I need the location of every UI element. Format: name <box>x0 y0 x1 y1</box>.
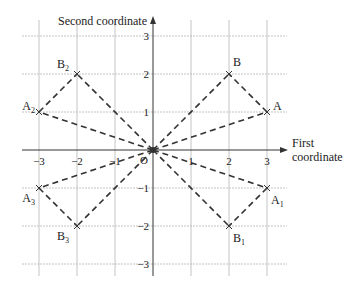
point-label: A <box>273 99 282 113</box>
dashed-segment <box>39 188 77 226</box>
point-label: A1 <box>271 193 284 209</box>
point-label-name: A <box>22 191 31 205</box>
coordinate-diagram: First coordinate Second coordinate O −3−… <box>0 0 357 289</box>
x-tick-label: −1 <box>109 155 121 167</box>
y-tick-label: −1 <box>137 182 149 194</box>
y-tick-label: −2 <box>137 220 149 232</box>
point-label-name: A <box>271 193 280 207</box>
origin-label: O <box>140 154 148 166</box>
x-tick-label: −2 <box>71 155 83 167</box>
x-tick-label: 1 <box>188 155 194 167</box>
dashed-segment <box>153 112 267 150</box>
point-label-subscript: 3 <box>65 236 69 245</box>
point-label: A3 <box>22 191 35 207</box>
point-label-name: B <box>233 55 241 69</box>
point-label-name: B <box>233 231 241 245</box>
y-tick-label: −3 <box>137 258 149 270</box>
x-axis-label-line1: First <box>292 136 315 150</box>
y-axis-arrow-icon <box>150 16 156 24</box>
point-label-subscript: 3 <box>31 198 35 207</box>
point-label: B2 <box>57 57 69 73</box>
point-label: B3 <box>57 229 69 245</box>
x-tick-label: 3 <box>264 155 270 167</box>
x-tick-label: 2 <box>226 155 232 167</box>
dashed-segment <box>39 150 153 188</box>
point-label-name: A <box>273 99 282 113</box>
point-label: B1 <box>233 231 245 247</box>
x-axis-label-line2: coordinate <box>292 150 343 164</box>
point-label-subscript: 2 <box>65 64 69 73</box>
y-tick-label: 1 <box>144 106 150 118</box>
point-label-name: B <box>57 57 65 71</box>
point-label-subscript: 1 <box>241 238 245 247</box>
dashed-segment <box>39 112 153 150</box>
point-label-subscript: 2 <box>31 106 35 115</box>
dashed-segment <box>229 74 267 112</box>
y-axis-label: Second coordinate <box>58 14 147 28</box>
y-tick-label: 3 <box>144 30 150 42</box>
dashed-segment <box>39 74 77 112</box>
point-label: B <box>233 55 241 69</box>
point-label-name: B <box>57 229 65 243</box>
x-tick-label: −3 <box>33 155 45 167</box>
y-tick-label: 2 <box>144 68 150 80</box>
point-label-subscript: 1 <box>280 200 284 209</box>
axes: First coordinate Second coordinate O <box>22 14 343 276</box>
coordinate-plane-svg: First coordinate Second coordinate O −3−… <box>0 0 357 289</box>
x-axis-arrow-icon <box>280 147 288 153</box>
dashed-segment <box>153 150 267 188</box>
dashed-segment <box>229 188 267 226</box>
point-label-name: A <box>22 99 31 113</box>
point-label: A2 <box>22 99 35 115</box>
